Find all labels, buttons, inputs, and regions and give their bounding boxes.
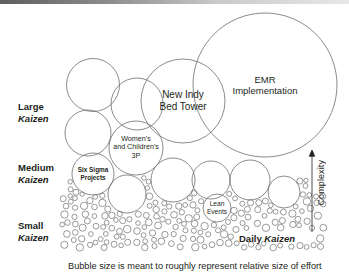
daily-kaizen-bubble (149, 230, 155, 236)
daily-kaizen-bubble (142, 176, 147, 181)
daily-kaizen-bubble (134, 228, 141, 235)
daily-kaizen-bubble (80, 202, 87, 209)
daily-kaizen-bubble (78, 236, 84, 242)
daily-kaizen-bubble (134, 239, 140, 245)
daily-kaizen-bubble (190, 236, 195, 241)
daily-kaizen-bubble (198, 230, 203, 235)
daily-kaizen-bubble (242, 245, 247, 250)
bubble-label-six-sigma-projects: Six Sigma Projects (78, 166, 109, 181)
daily-kaizen-bubble (100, 193, 105, 198)
daily-kaizen-bubble (84, 218, 90, 224)
daily-kaizen-bubble (173, 224, 178, 229)
daily-kaizen-label: Daily Kaizen (239, 233, 295, 244)
daily-kaizen-bubble (145, 219, 152, 226)
bubble-medium-unlabeled-6 (108, 175, 146, 213)
daily-kaizen-bubble (297, 243, 303, 249)
daily-kaizen-bubble (311, 243, 316, 248)
daily-kaizen-bubble (61, 241, 68, 248)
daily-kaizen-bubble (117, 228, 123, 234)
bubble-label-lean-events: Lean Events (207, 200, 227, 216)
category-label-medium: Medium Kaizen (18, 162, 54, 185)
daily-kaizen-bubble (307, 205, 313, 211)
daily-kaizen-bubble (68, 199, 73, 204)
category-term-medium: Kaizen (18, 174, 54, 186)
daily-kaizen-bubble (171, 211, 178, 218)
daily-kaizen-bubble (254, 220, 260, 226)
daily-kaizen-bubble (114, 218, 119, 223)
daily-kaizen-bubble (240, 221, 245, 226)
daily-kaizen-bubble (273, 209, 278, 214)
bubble-medium-unlabeled-3 (192, 161, 230, 199)
daily-kaizen-bubble (303, 183, 308, 188)
daily-kaizen-bubble (146, 193, 153, 200)
daily-kaizen-bubble (162, 231, 168, 237)
bubble-vector-layer (0, 0, 349, 279)
daily-kaizen-bubble (60, 196, 66, 202)
daily-kaizen-bubble (297, 223, 302, 228)
daily-kaizen-bubble (80, 192, 84, 196)
daily-kaizen-bubble (169, 241, 175, 247)
daily-kaizen-bubble (177, 244, 183, 250)
daily-kaizen-bubble (61, 211, 68, 218)
daily-kaizen-bubble (209, 242, 215, 248)
daily-kaizen-bubble (279, 218, 285, 224)
daily-kaizen-bubble (99, 199, 106, 206)
daily-kaizen-bubble (206, 232, 211, 237)
daily-kaizen-bubble (227, 191, 232, 196)
daily-kaizen-bubble (109, 225, 115, 231)
daily-kaizen-bubble (191, 228, 196, 233)
daily-kaizen-bubble (201, 222, 208, 229)
daily-kaizen-bubble (314, 212, 321, 219)
daily-kaizen-bubble (191, 190, 197, 196)
daily-kaizen-bubble (267, 208, 272, 213)
daily-kaizen-bubble (162, 209, 167, 214)
daily-kaizen-bubble (280, 209, 286, 215)
bubble-medium-unlabeled-5 (268, 176, 300, 208)
daily-kaizen-bubble (145, 186, 150, 191)
daily-kaizen-bubble (73, 189, 79, 195)
daily-kaizen-bubble (158, 238, 165, 245)
daily-kaizen-bubble (277, 224, 284, 231)
daily-kaizen-bubble (146, 179, 151, 184)
daily-kaizen-bubble (64, 231, 71, 238)
bubble-label-womens-childrens-3p: Women's and Children's 3P (113, 135, 159, 160)
daily-kaizen-bubble (154, 214, 160, 220)
large-bubble-group (65, 13, 337, 222)
daily-kaizen-bubble (68, 194, 72, 198)
daily-kaizen-bubble (135, 211, 141, 217)
daily-kaizen-bubble (289, 210, 296, 217)
daily-kaizen-bubble (152, 243, 157, 248)
daily-kaizen-bubble (76, 244, 83, 251)
daily-kaizen-bubble (233, 196, 238, 201)
category-size-large: Large (18, 101, 44, 112)
daily-kaizen-bubble (244, 226, 249, 231)
daily-kaizen-bubble (300, 209, 305, 214)
daily-kaizen-bubble (153, 206, 160, 213)
daily-kaizen-bubble (317, 243, 323, 249)
daily-kaizen-bubble (320, 224, 327, 231)
daily-kaizen-bubble (221, 225, 226, 230)
daily-kaizen-bubble (187, 195, 192, 200)
daily-kaizen-bubble (73, 221, 79, 227)
daily-kaizen-bubble (289, 244, 294, 249)
daily-kaizen-bubble (143, 239, 148, 244)
daily-kaizen-bubble (238, 210, 244, 216)
daily-kaizen-bubble (191, 220, 198, 227)
daily-kaizen-bubble (293, 204, 298, 209)
daily-kaizen-bubble (247, 200, 253, 206)
daily-kaizen-bubble (303, 198, 311, 206)
daily-kaizen-bubble (211, 222, 216, 227)
daily-kaizen-bubble (142, 244, 148, 250)
daily-kaizen-bubble (217, 239, 224, 246)
daily-kaizen-bubble (190, 202, 196, 208)
daily-kaizen-bubble (272, 219, 278, 225)
daily-kaizen-bubble (183, 203, 188, 208)
daily-kaizen-bubble (268, 203, 273, 208)
daily-kaizen-bubble (89, 232, 94, 237)
daily-kaizen-bubble (262, 198, 268, 204)
category-label-large: Large Kaizen (18, 101, 49, 124)
daily-kaizen-bubble (225, 219, 230, 224)
daily-kaizen-bubble (93, 240, 98, 245)
bubble-medium-unlabeled-4 (230, 160, 270, 200)
daily-kaizen-bubble (82, 211, 89, 218)
